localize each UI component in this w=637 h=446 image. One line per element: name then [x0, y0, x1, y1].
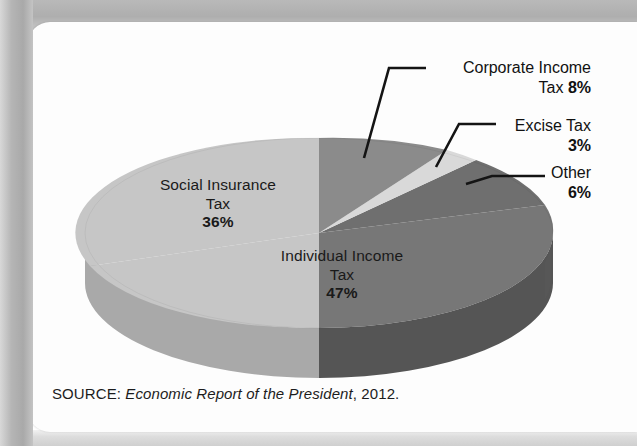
- slice-label-individual-income-line1: Individual Income: [247, 247, 437, 266]
- callout-label-excise-tax-line1: Excise Tax: [441, 116, 591, 136]
- slice-label-social-insurance-line1: Social Insurance: [118, 176, 318, 195]
- callout-label-corporate-income: Corporate Income Tax 8%: [411, 58, 591, 98]
- slice-label-individual-income: Individual Income Tax 47%: [247, 247, 437, 303]
- slice-label-social-insurance: Social Insurance Tax 36%: [118, 176, 318, 232]
- slice-label-social-insurance-line2: Tax: [118, 195, 318, 214]
- pie-chart: Social Insurance Tax 36% Individual Inco…: [0, 0, 637, 446]
- callout-label-other-line1: Other: [487, 163, 591, 183]
- slice-label-individual-income-line2: Tax: [247, 266, 437, 285]
- callout-label-corporate-income-line2: Tax 8%: [411, 78, 591, 98]
- source-note: SOURCE: Economic Report of the President…: [52, 385, 399, 402]
- slice-value-other: 6%: [487, 183, 591, 203]
- slice-value-corporate-income: 8%: [568, 79, 591, 96]
- source-suffix: , 2012.: [353, 385, 400, 402]
- source-prefix: SOURCE:: [52, 385, 121, 402]
- callout-label-corporate-income-word: Tax: [539, 79, 564, 96]
- scanned-page: Social Insurance Tax 36% Individual Inco…: [0, 0, 637, 446]
- callout-label-excise-tax: Excise Tax 3%: [441, 116, 591, 156]
- source-title: Economic Report of the President: [125, 385, 352, 402]
- callout-label-corporate-income-line1: Corporate Income: [411, 58, 591, 78]
- slice-value-individual-income: 47%: [247, 284, 437, 303]
- slice-value-excise-tax: 3%: [441, 136, 591, 156]
- slice-value-social-insurance: 36%: [118, 213, 318, 232]
- callout-label-other: Other 6%: [487, 163, 591, 203]
